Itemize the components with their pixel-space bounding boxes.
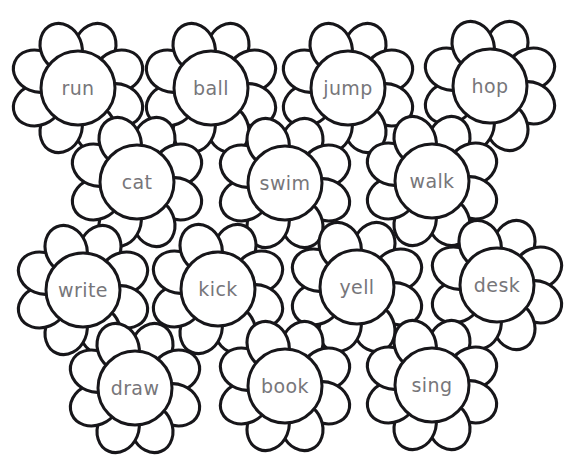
flower-word-label: draw [79,332,191,444]
flower-card[interactable]: walk [432,181,433,182]
worksheet-canvas: runballjumphopcatswimwalkwritekickyellde… [0,0,576,470]
flower-card[interactable]: swim [285,183,286,184]
flower-card[interactable]: yell [357,287,358,288]
flower-card[interactable]: ball [211,88,212,89]
flower-card[interactable]: hop [490,86,491,87]
flower-card[interactable]: desk [497,285,498,286]
flower-word-label: sing [376,329,488,441]
flower-card[interactable]: run [78,88,79,89]
flower-card-grid: runballjumphopcatswimwalkwritekickyellde… [0,0,576,470]
flower-card[interactable]: book [285,386,286,387]
flower-card[interactable]: write [83,290,84,291]
flower-word-label: book [229,330,341,442]
flower-card[interactable]: sing [432,385,433,386]
flower-card[interactable]: jump [348,88,349,89]
flower-card[interactable]: cat [137,182,138,183]
flower-card[interactable]: kick [218,289,219,290]
flower-card[interactable]: draw [135,388,136,389]
